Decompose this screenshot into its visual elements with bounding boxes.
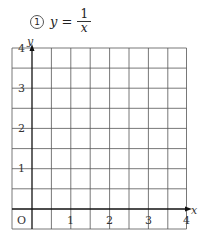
coordinate-grid: y x O 4 3 2 1 1 2 3 4	[0, 0, 200, 243]
grid-lines	[12, 48, 187, 229]
y-tick-4: 4	[18, 42, 25, 55]
y-tick-3: 3	[18, 82, 25, 95]
x-axis-label: x	[191, 204, 198, 217]
x-tick-2: 2	[106, 214, 113, 227]
y-axis-label: y	[26, 35, 34, 48]
x-tick-3: 3	[145, 214, 152, 227]
axes	[12, 44, 192, 229]
y-tick-2: 2	[18, 122, 25, 135]
origin-label: O	[17, 214, 26, 227]
x-tick-4: 4	[183, 214, 190, 227]
y-tick-1: 1	[18, 162, 25, 175]
x-tick-1: 1	[67, 214, 74, 227]
